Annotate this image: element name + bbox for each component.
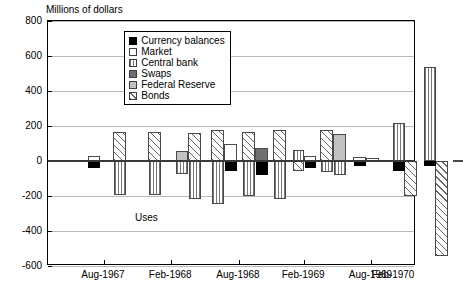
chart-legend: Currency balancesMarketCentral bankSwaps… bbox=[124, 31, 230, 105]
bar-currency bbox=[424, 161, 436, 166]
y-axis-tick-label: 0 bbox=[0, 155, 42, 166]
y-axis-tick-label: -600 bbox=[0, 260, 42, 271]
legend-item-central: Central bank bbox=[129, 57, 224, 68]
bar-bonds bbox=[320, 130, 333, 161]
x-axis-tick-mark bbox=[104, 260, 105, 264]
bar-currency bbox=[256, 161, 268, 175]
y-axis-tick-label: -400 bbox=[0, 225, 42, 236]
x-axis-tick-mark bbox=[304, 260, 305, 264]
gridline bbox=[48, 266, 414, 267]
bar-central bbox=[424, 67, 436, 162]
y-axis-tick-label: 400 bbox=[0, 85, 42, 96]
x-axis-tick-label: Aug-1967 bbox=[81, 269, 124, 280]
gridline bbox=[48, 196, 414, 197]
legend-label: Central bank bbox=[141, 57, 198, 68]
legend-item-market: Market bbox=[129, 46, 224, 57]
legend-label: Federal Reserve bbox=[141, 79, 215, 90]
bar-central bbox=[393, 123, 405, 161]
y-axis-tick-mark bbox=[48, 56, 52, 57]
bar-bonds bbox=[404, 161, 417, 196]
gridline bbox=[48, 126, 414, 127]
y-axis-title: Millions of dollars bbox=[46, 4, 123, 15]
y-axis-tick-mark bbox=[48, 21, 52, 22]
y-axis-tick-label: -200 bbox=[0, 190, 42, 201]
legend-swatch-swaps-icon bbox=[129, 70, 137, 78]
bar-central bbox=[334, 161, 346, 175]
legend-label: Swaps bbox=[141, 68, 171, 79]
legend-swatch-fed-icon bbox=[129, 81, 137, 89]
legend-label: Currency balances bbox=[141, 35, 224, 46]
bar-bonds bbox=[113, 132, 126, 161]
bar-central bbox=[212, 161, 224, 204]
bar-market bbox=[453, 160, 463, 162]
bar-central bbox=[243, 161, 255, 196]
bar-bonds bbox=[293, 161, 304, 171]
x-axis-tick-label: Feb-1970 bbox=[372, 269, 415, 280]
x-axis-tick-mark bbox=[171, 260, 172, 264]
legend-label: Bonds bbox=[141, 90, 169, 101]
x-axis-tick-label: Aug-1968 bbox=[216, 269, 259, 280]
y-axis-tick-mark bbox=[48, 126, 52, 127]
legend-swatch-currency-icon bbox=[129, 37, 137, 45]
bar-central bbox=[321, 161, 333, 172]
bar-central bbox=[114, 161, 126, 195]
bar-central bbox=[149, 161, 161, 195]
bar-currency bbox=[88, 161, 100, 168]
bar-bonds bbox=[188, 133, 201, 161]
bar-currency bbox=[393, 161, 405, 171]
x-axis-tick-label: Feb-1968 bbox=[149, 269, 192, 280]
legend-item-swaps: Swaps bbox=[129, 68, 224, 79]
bar-bonds bbox=[148, 132, 161, 161]
bar-central bbox=[176, 161, 188, 174]
legend-item-currency: Currency balances bbox=[129, 35, 224, 46]
zero-axis-line bbox=[48, 160, 414, 162]
gridline bbox=[48, 21, 414, 22]
y-axis-tick-label: 600 bbox=[0, 50, 42, 61]
legend-swatch-market-icon bbox=[129, 48, 137, 56]
y-axis-tick-mark bbox=[48, 231, 52, 232]
y-axis-tick-label: 200 bbox=[0, 120, 42, 131]
gridline bbox=[48, 231, 414, 232]
gridline bbox=[48, 91, 414, 92]
bar-central bbox=[189, 161, 201, 199]
legend-swatch-central-icon bbox=[129, 59, 137, 67]
x-axis-tick-mark bbox=[371, 260, 372, 264]
x-axis-tick-mark bbox=[239, 260, 240, 264]
gridline bbox=[48, 56, 414, 57]
plot-area bbox=[47, 20, 415, 265]
y-axis-tick-mark bbox=[48, 196, 52, 197]
bar-bonds bbox=[273, 130, 286, 161]
bar-currency bbox=[305, 161, 316, 168]
legend-swatch-bonds-icon bbox=[129, 92, 137, 100]
x-axis-tick-label: Feb-1969 bbox=[282, 269, 325, 280]
bar-fed bbox=[333, 134, 346, 161]
bar-central bbox=[274, 161, 286, 199]
bar-bonds bbox=[242, 132, 255, 161]
bar-market bbox=[224, 144, 237, 161]
y-axis-tick-mark bbox=[48, 91, 52, 92]
y-axis-tick-mark bbox=[48, 266, 52, 267]
legend-item-fed: Federal Reserve bbox=[129, 79, 224, 90]
region-label-uses: Uses bbox=[135, 212, 158, 223]
legend-label: Market bbox=[141, 46, 172, 57]
bar-bonds bbox=[211, 130, 224, 161]
bar-currency bbox=[225, 161, 237, 171]
y-axis-tick-label: 800 bbox=[0, 15, 42, 26]
legend-item-bonds: Bonds bbox=[129, 90, 224, 101]
bar-bonds bbox=[435, 161, 448, 256]
